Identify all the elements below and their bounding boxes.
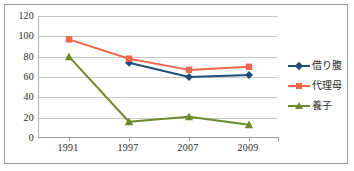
- y-tick-label: 120: [4, 11, 34, 21]
- diamond-marker-icon: [295, 62, 303, 70]
- legend-label: 借り腹: [312, 60, 342, 72]
- data-point-marker: [66, 36, 72, 42]
- chart-figure: 020406080100120 1991199720072009 借り腹代理母養…: [0, 0, 354, 171]
- x-tick-label: 1991: [40, 142, 96, 154]
- gridline: [39, 138, 278, 139]
- data-point-marker: [186, 67, 192, 73]
- series-layer: [39, 16, 279, 138]
- plot-area: [38, 16, 278, 138]
- x-tick-label: 2007: [160, 142, 216, 154]
- x-tick-mark: [129, 137, 130, 141]
- x-axis: 1991199720072009: [38, 142, 278, 158]
- data-point-marker: [126, 56, 132, 62]
- legend-item[interactable]: 借り腹: [288, 56, 350, 76]
- legend-swatch: [288, 100, 310, 112]
- series-line: [69, 57, 249, 125]
- legend-swatch: [288, 60, 310, 72]
- triangle-marker-icon: [295, 102, 303, 109]
- y-tick-label: 20: [4, 113, 34, 123]
- x-tick-label: 2009: [220, 142, 276, 154]
- chart-legend: 借り腹代理母養子: [288, 56, 350, 116]
- data-point-marker: [185, 73, 193, 81]
- data-point-marker: [245, 71, 253, 79]
- data-point-marker: [246, 64, 252, 70]
- y-tick-label: 0: [4, 133, 34, 143]
- square-marker-icon: [296, 83, 302, 89]
- y-tick-label: 100: [4, 31, 34, 41]
- x-axis-end-tick: [278, 137, 279, 141]
- y-tick-label: 80: [4, 52, 34, 62]
- y-axis: 020406080100120: [2, 16, 34, 138]
- legend-label: 代理母: [312, 80, 342, 92]
- legend-item[interactable]: 代理母: [288, 76, 350, 96]
- x-tick-label: 1997: [100, 142, 156, 154]
- y-tick-label: 60: [4, 72, 34, 82]
- data-point-marker: [65, 52, 73, 60]
- legend-label: 養子: [312, 100, 332, 112]
- x-tick-mark: [189, 137, 190, 141]
- y-tick-label: 40: [4, 92, 34, 102]
- legend-item[interactable]: 養子: [288, 96, 350, 116]
- series-line: [69, 39, 249, 70]
- x-tick-mark: [69, 137, 70, 141]
- x-tick-mark: [249, 137, 250, 141]
- legend-swatch: [288, 80, 310, 92]
